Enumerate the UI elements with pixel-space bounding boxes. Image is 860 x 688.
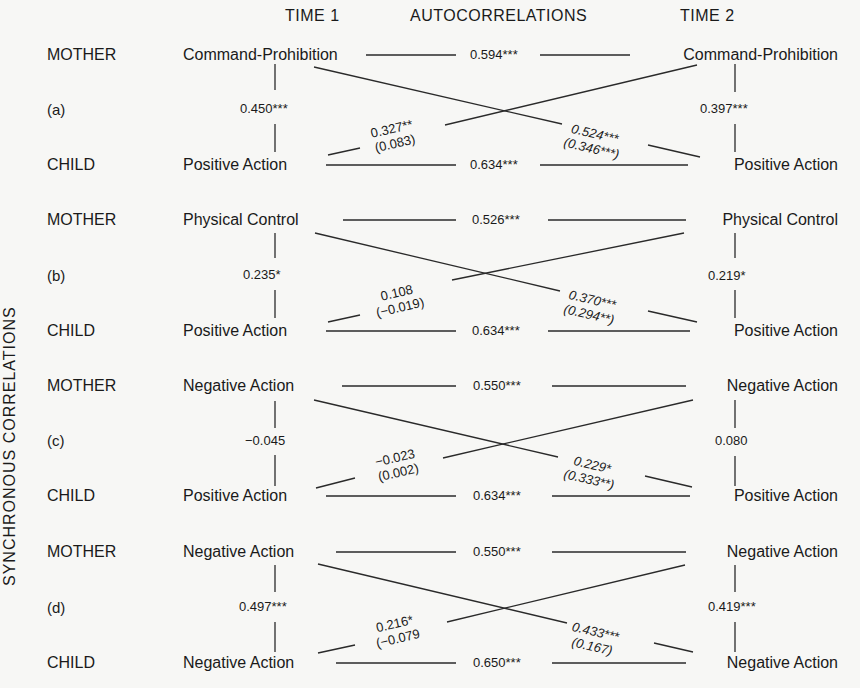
node-child-time1: Negative Action — [182, 654, 295, 672]
node-mother-time1: Negative Action — [182, 543, 295, 561]
child-role-label: CHILD — [47, 322, 95, 340]
node-mother-time2: Command-Prohibition — [682, 46, 839, 64]
child-role-label: CHILD — [47, 654, 95, 672]
node-mother-time1: Physical Control — [182, 211, 300, 229]
panel-tag: (a) — [47, 101, 65, 118]
autocorrelation-mother: 0.550*** — [470, 544, 524, 559]
synchronous-correlation-time2: 0.080 — [712, 433, 751, 448]
synchronous-correlation-time2: 0.419*** — [705, 599, 759, 614]
synchronous-correlation-time1: 0.235* — [240, 267, 284, 282]
synchronous-correlation-time1: 0.497*** — [236, 599, 290, 614]
header-time-2: TIME 2 — [680, 7, 735, 25]
node-child-time2: Positive Action — [733, 322, 839, 340]
synchronous-correlation-time1: 0.450*** — [237, 101, 291, 116]
node-child-time1: Positive Action — [182, 156, 288, 174]
synchronous-correlation-time2: 0.397*** — [697, 101, 751, 116]
node-mother-time2: Physical Control — [721, 211, 839, 229]
synchronous-correlation-time2: 0.219* — [705, 268, 749, 283]
panel-d-lines — [275, 552, 735, 663]
node-mother-time1: Negative Action — [182, 377, 295, 395]
child-role-label: CHILD — [47, 487, 95, 505]
panel-b-lines — [275, 220, 735, 331]
mother-role-label: MOTHER — [47, 377, 116, 395]
autocorrelation-mother: 0.550*** — [470, 378, 524, 393]
side-label-synchronous-correlations: SYNCHRONOUS CORRELATIONS — [1, 556, 21, 586]
mother-role-label: MOTHER — [47, 211, 116, 229]
autocorrelation-child: 0.634*** — [467, 157, 521, 172]
node-child-time2: Negative Action — [726, 654, 839, 672]
node-mother-time2: Negative Action — [726, 377, 839, 395]
node-mother-time1: Command-Prohibition — [182, 46, 339, 64]
synchronous-correlation-time1: −0.045 — [242, 433, 288, 448]
panel-tag: (c) — [47, 432, 65, 449]
header-time-1: TIME 1 — [285, 7, 340, 25]
header-autocorrelations: AUTOCORRELATIONS — [410, 7, 587, 25]
autocorrelation-mother: 0.526*** — [469, 212, 523, 227]
autocorrelation-child: 0.634*** — [469, 323, 523, 338]
autocorrelation-child: 0.650*** — [470, 655, 524, 670]
autocorrelation-mother: 0.594*** — [467, 47, 521, 62]
node-child-time2: Positive Action — [733, 156, 839, 174]
panel-tag: (d) — [47, 599, 65, 616]
child-role-label: CHILD — [47, 156, 95, 174]
panel-c-lines — [275, 386, 735, 496]
mother-role-label: MOTHER — [47, 46, 116, 64]
panel-tag: (b) — [47, 267, 65, 284]
panel-a-lines — [275, 55, 735, 165]
node-child-time2: Positive Action — [733, 487, 839, 505]
mother-role-label: MOTHER — [47, 543, 116, 561]
node-child-time1: Positive Action — [182, 487, 288, 505]
node-mother-time2: Negative Action — [726, 543, 839, 561]
autocorrelation-child: 0.634*** — [470, 488, 524, 503]
node-child-time1: Positive Action — [182, 322, 288, 340]
